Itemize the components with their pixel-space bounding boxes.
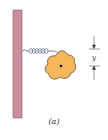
center-of-mass-dot xyxy=(60,65,63,68)
wall xyxy=(13,10,22,118)
figure-caption: (a) xyxy=(0,117,108,126)
dimension-label-y: y xyxy=(91,54,97,62)
spring xyxy=(22,49,58,54)
